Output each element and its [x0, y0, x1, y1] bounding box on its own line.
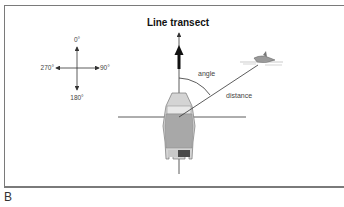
angle-label: angle	[198, 70, 215, 78]
dolphin-icon	[240, 51, 283, 65]
arrow-up-icon	[175, 45, 184, 69]
compass-north-label: 0°	[74, 36, 81, 43]
compass-south-label: 180°	[70, 94, 84, 101]
compass-west-label: 270°	[41, 64, 55, 71]
boat-icon	[163, 93, 195, 159]
panel-label: B	[4, 190, 12, 204]
distance-label: distance	[226, 92, 252, 99]
diagram-title: Line transect	[147, 17, 210, 28]
compass-east-label: 90°	[100, 64, 110, 71]
distance-line	[179, 65, 258, 117]
compass-rose: 0° 90° 180° 270°	[41, 36, 111, 101]
angle-arc	[179, 78, 210, 95]
